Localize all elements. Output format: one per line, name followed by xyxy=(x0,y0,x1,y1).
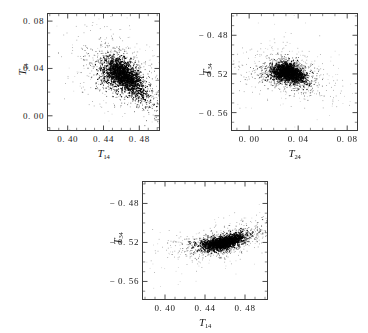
y-axis-title-c: T34 xyxy=(111,232,123,245)
x-axis-title-subscript-c: 14 xyxy=(205,322,211,329)
scatter-panel-c: (c)0. 400. 440. 48− 0. 56− 0. 52− 0. 48T… xyxy=(0,0,368,333)
figure-canvas: (a)0. 400. 440. 480. 000. 040. 08T14T24(… xyxy=(0,0,368,333)
y-tick-label-c-2: − 0. 48 xyxy=(109,198,139,208)
plot-frame-c xyxy=(142,181,268,300)
x-axis-title-c: T14 xyxy=(199,316,211,329)
x-tick-label-c-2: 0. 48 xyxy=(235,303,256,313)
y-tick-label-c-0: − 0. 56 xyxy=(109,276,139,286)
x-tick-label-c-1: 0. 44 xyxy=(195,303,216,313)
y-axis-title-symbol-c: T xyxy=(111,238,123,244)
y-axis-title-subscript-c: 34 xyxy=(117,232,124,238)
scatter-points-c xyxy=(143,182,267,299)
x-tick-label-c-0: 0. 40 xyxy=(155,303,176,313)
